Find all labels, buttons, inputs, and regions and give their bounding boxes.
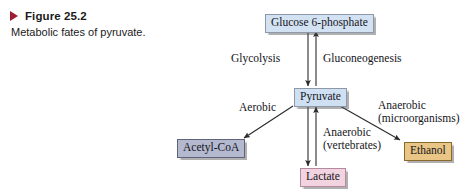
edge-label-anaerobic-vertebrates-line2: (vertebrates) xyxy=(323,139,381,151)
edge-label-anaerobic-vertebrates-line1: Anaerobic xyxy=(323,126,371,138)
edge-label-aerobic: Aerobic xyxy=(239,101,276,114)
edge-label-anaerobic-microorganisms-line2: (microorganisms) xyxy=(378,112,460,124)
edge-label-gluconeogenesis: Gluconeogenesis xyxy=(323,52,402,65)
pathway-arrows xyxy=(0,0,474,196)
figure-panel: Figure 25.2 Metabolic fates of pyruvate.… xyxy=(0,0,474,196)
edge-label-anaerobic-microorganisms: Anaerobic (microorganisms) xyxy=(378,99,460,125)
node-pyruvate[interactable]: Pyruvate xyxy=(294,88,347,107)
node-lactate[interactable]: Lactate xyxy=(300,168,346,187)
node-ethanol[interactable]: Ethanol xyxy=(404,142,452,161)
pathway-diagram: Glucose 6-phosphate Pyruvate Acetyl-CoA … xyxy=(0,0,474,196)
node-glucose-6-phosphate[interactable]: Glucose 6-phosphate xyxy=(265,14,374,33)
node-acetyl-coa[interactable]: Acetyl-CoA xyxy=(177,139,245,158)
edge-label-anaerobic-microorganisms-line1: Anaerobic xyxy=(378,99,426,111)
edge-label-glycolysis: Glycolysis xyxy=(231,52,280,65)
edge-label-anaerobic-vertebrates: Anaerobic (vertebrates) xyxy=(323,126,381,152)
